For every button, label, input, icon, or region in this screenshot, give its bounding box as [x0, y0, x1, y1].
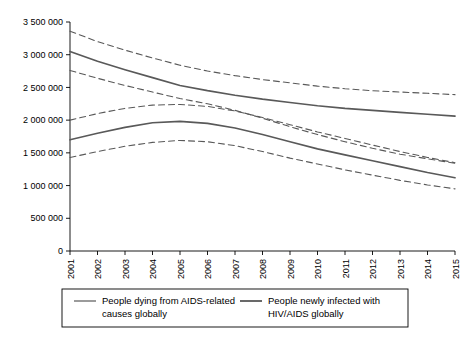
x-tick-label: 2012: [368, 259, 378, 279]
y-tick-label: 3 500 000: [23, 17, 63, 27]
series-line-4: [70, 104, 455, 162]
x-tick-label: 2001: [66, 259, 76, 279]
line-chart: 0500 0001 000 0001 500 0002 000 0002 500…: [0, 0, 467, 337]
legend-label-0: People dying from AIDS-related: [102, 295, 235, 306]
x-tick-label: 2009: [286, 259, 296, 279]
series-line-0: [70, 51, 455, 116]
legend-label-1: People newly infected with: [268, 295, 380, 306]
x-tick-label: 2002: [93, 259, 103, 279]
x-tick-label: 2015: [451, 259, 461, 279]
legend-label-1-line2: HIV/AIDS globally: [268, 308, 344, 319]
x-tick-label: 2014: [423, 259, 433, 279]
series-line-2: [70, 70, 455, 163]
series-line-5: [70, 140, 455, 188]
x-tick-label: 2013: [396, 259, 406, 279]
legend-label-0-line2: causes globally: [102, 308, 167, 319]
y-tick-label: 1 500 000: [23, 148, 63, 158]
x-tick-label: 2008: [258, 259, 268, 279]
y-tick-label: 500 000: [30, 213, 63, 223]
x-tick-label: 2010: [313, 259, 323, 279]
series-line-3: [70, 121, 455, 177]
x-tick-label: 2005: [176, 259, 186, 279]
x-tick-label: 2007: [231, 259, 241, 279]
chart-container: 0500 0001 000 0001 500 0002 000 0002 500…: [0, 0, 467, 337]
y-tick-label: 2 000 000: [23, 115, 63, 125]
x-tick-label: 2004: [148, 259, 158, 279]
series-line-1: [70, 31, 455, 94]
y-tick-label: 0: [58, 246, 63, 256]
y-tick-label: 1 000 000: [23, 181, 63, 191]
y-tick-label: 3 000 000: [23, 50, 63, 60]
x-tick-label: 2011: [341, 259, 351, 278]
x-tick-label: 2003: [121, 259, 131, 279]
x-tick-label: 2006: [203, 259, 213, 279]
y-tick-label: 2 500 000: [23, 83, 63, 93]
